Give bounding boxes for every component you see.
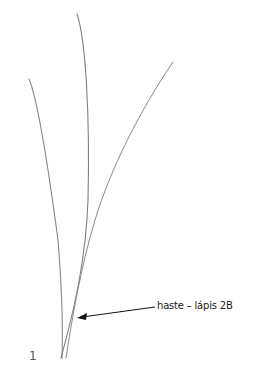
- grass-stems-drawing: [0, 0, 253, 375]
- annotation-arrow-line: [82, 307, 155, 317]
- illustration-canvas: haste – lápis 2B 1: [0, 0, 253, 375]
- annotation-label: haste – lápis 2B: [157, 300, 233, 311]
- stem-left: [29, 79, 62, 358]
- figure-number: 1: [29, 349, 37, 363]
- arrowhead-icon: [77, 313, 87, 320]
- stem-right: [66, 62, 173, 358]
